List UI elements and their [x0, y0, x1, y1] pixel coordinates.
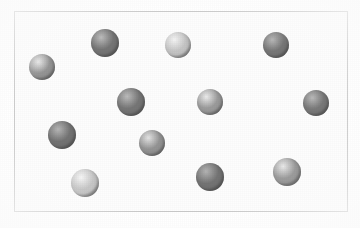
sphere-top-center — [165, 32, 191, 58]
sphere-lower-center — [139, 130, 165, 156]
sphere-middle-right — [303, 90, 329, 116]
sphere-bottom-right — [273, 158, 301, 186]
sphere-bottom-left — [71, 169, 99, 197]
sphere-bottom-center — [196, 163, 224, 191]
sphere-middle-left — [117, 88, 145, 116]
sphere-middle-center — [197, 89, 223, 115]
particle-diagram-figure — [0, 0, 360, 228]
sphere-lower-left — [48, 121, 76, 149]
sphere-top-upper-left — [91, 29, 119, 57]
sphere-top-left — [29, 54, 55, 80]
sphere-top-right — [263, 32, 289, 58]
